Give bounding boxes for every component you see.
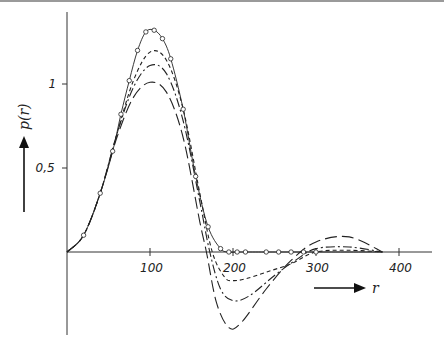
y-tick-label: 0,5 — [36, 161, 55, 175]
data-point-marker — [276, 250, 280, 254]
y-ticks: 0,51 — [36, 77, 68, 175]
x-tick-label: 200 — [223, 261, 246, 275]
x-tick-label: 400 — [389, 261, 412, 275]
x-tick-label: 100 — [140, 261, 163, 275]
series-layer — [67, 29, 382, 329]
data-point-marker — [127, 78, 131, 82]
data-point-marker — [218, 246, 222, 250]
x-arrowhead-icon — [354, 283, 366, 293]
data-point-marker — [81, 233, 85, 237]
x-axis-label: r — [372, 280, 380, 296]
data-point-marker — [235, 250, 239, 254]
data-point-marker — [152, 28, 156, 32]
data-point-marker — [227, 250, 231, 254]
y-tick-label: 1 — [49, 77, 57, 91]
data-point-marker — [110, 149, 114, 153]
data-point-marker — [193, 174, 197, 178]
data-point-marker — [144, 30, 148, 34]
data-point-marker — [289, 250, 293, 254]
data-point-marker — [206, 225, 210, 229]
data-point-marker — [98, 191, 102, 195]
data-point-marker — [243, 250, 247, 254]
data-point-marker — [264, 250, 268, 254]
series-dash-long — [67, 82, 382, 329]
chart: 100200300400 0,51 p(r) r — [0, 0, 444, 347]
x-tick-label: 300 — [306, 261, 329, 275]
y-arrowhead-icon — [19, 136, 29, 148]
series-dash-short — [67, 51, 382, 281]
data-point-marker — [301, 250, 305, 254]
data-point-marker — [181, 107, 185, 111]
data-point-marker — [314, 250, 318, 254]
data-point-marker — [160, 36, 164, 40]
data-point-marker — [169, 57, 173, 61]
data-point-marker — [119, 112, 123, 116]
y-axis-label: p(r) — [16, 103, 32, 130]
data-point-marker — [135, 48, 139, 52]
